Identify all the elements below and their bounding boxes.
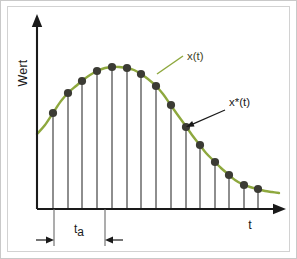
y-axis (32, 14, 42, 209)
sampling-interval-label-subscript: a (77, 225, 84, 239)
sample-point-4 (108, 63, 116, 71)
sample-point-1 (64, 89, 72, 97)
sampling-interval-label: ta (74, 222, 84, 239)
sample-point-7 (152, 82, 160, 90)
sampling-diagram: Wert t x(t) x*(t) ta (1, 1, 297, 259)
y-axis-label: Wert (16, 59, 30, 86)
sample-point-11 (211, 158, 219, 166)
sample-point-2 (78, 77, 86, 85)
annotation-continuous-signal: x(t) (157, 50, 204, 74)
x-star-of-t-label: x*(t) (229, 96, 250, 108)
x-of-t-label: x(t) (187, 50, 204, 62)
sample-point-3 (93, 67, 101, 75)
sample-point-14 (254, 185, 262, 193)
x-of-t-leader-line (157, 56, 183, 74)
x-axis (37, 204, 286, 214)
x-axis-arrowhead-icon (273, 204, 286, 214)
sample-point-12 (225, 171, 233, 179)
sample-point-5 (123, 64, 131, 72)
x-axis-label: t (248, 218, 252, 232)
y-axis-arrowhead-icon (32, 14, 42, 27)
sample-point-10 (196, 141, 204, 149)
sample-point-13 (240, 181, 248, 189)
sample-point-8 (167, 101, 175, 109)
annotation-sampled-signal: x*(t) (186, 96, 250, 127)
sampling-interval-dimension: ta (36, 209, 123, 246)
x-star-of-t-leader-line (192, 110, 225, 125)
dimension-arrowhead-left-icon (46, 236, 54, 243)
sample-point-0 (49, 109, 57, 117)
figure-frame: Wert t x(t) x*(t) ta (0, 0, 297, 259)
sample-point-6 (137, 70, 145, 78)
dimension-arrowhead-right-icon (105, 236, 113, 243)
